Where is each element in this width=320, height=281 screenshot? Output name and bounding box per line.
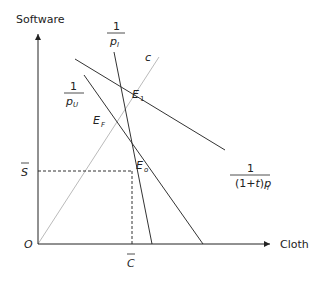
svg-text:I: I <box>117 41 119 49</box>
svg-text:1: 1 <box>140 95 144 103</box>
svg-text:F: F <box>101 121 106 129</box>
svg-text:I: I <box>267 184 269 192</box>
svg-text:p: p <box>109 35 117 48</box>
point-e0-label: E o <box>136 159 148 174</box>
x-axis-label: Cloth <box>280 238 309 251</box>
svg-text:1: 1 <box>70 80 77 93</box>
p-i-label: 1 p I <box>107 20 125 49</box>
y-axis-label: Software <box>16 13 65 26</box>
svg-text:E: E <box>136 159 143 172</box>
svg-text:o: o <box>144 166 148 174</box>
trade-diagram: Software Cloth O S C c 1 p I 1 p U 1 (1+… <box>0 0 320 281</box>
point-e1-label: E 1 <box>132 88 144 103</box>
p-u-label: 1 p U <box>64 80 84 109</box>
svg-text:1: 1 <box>113 20 120 33</box>
tariff-price-line <box>75 59 225 150</box>
svg-text:E: E <box>132 88 139 101</box>
c-bar-label: C <box>127 257 135 270</box>
point-ef-label: E F <box>93 114 106 129</box>
s-bar-label: S <box>21 166 28 179</box>
tariff-label: 1 (1+t)p I <box>230 162 271 192</box>
svg-text:(1+t)p: (1+t)p <box>235 177 271 190</box>
consumption-ray-line <box>38 57 159 244</box>
consumption-ray-label: c <box>145 51 151 64</box>
svg-text:E: E <box>93 114 100 127</box>
p-i-price-line <box>114 52 152 244</box>
svg-text:p: p <box>65 95 73 108</box>
origin-label: O <box>24 238 33 251</box>
svg-text:1: 1 <box>247 162 254 175</box>
svg-text:U: U <box>73 101 78 109</box>
